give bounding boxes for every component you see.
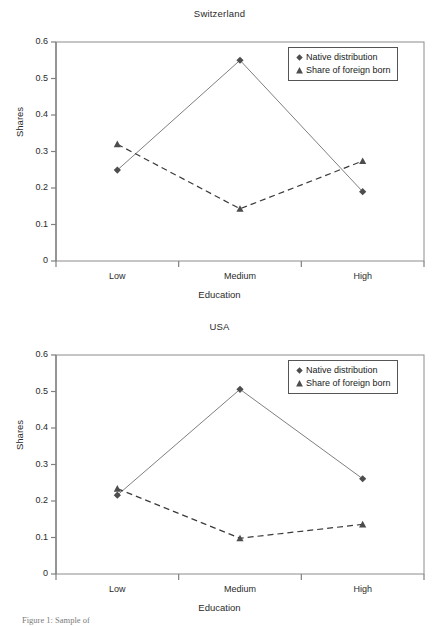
y-axis-label: Shares <box>14 107 25 137</box>
triangle-marker-icon <box>293 378 306 389</box>
y-tick-label: 0 <box>18 256 48 265</box>
legend-label: Share of foreign born <box>306 379 391 388</box>
chart-legend: Native distributionShare of foreign born <box>288 47 398 81</box>
triangle-marker-icon <box>293 65 306 76</box>
x-tick-label: High <box>323 585 403 594</box>
data-point-marker <box>236 205 243 212</box>
legend-label: Native distribution <box>306 53 378 62</box>
legend-item: Native distribution <box>293 364 391 377</box>
legend-label: Native distribution <box>306 366 378 375</box>
plot-area: 00.10.20.30.40.50.6LowMediumHighNative d… <box>0 0 439 313</box>
x-axis-label: Education <box>0 602 439 613</box>
chart-panel-switzerland: Switzerland 00.10.20.30.40.50.6LowMedium… <box>0 0 439 313</box>
y-tick-label: 0.2 <box>18 183 48 192</box>
y-tick-label: 0 <box>18 569 48 578</box>
y-tick-label: 0.6 <box>18 37 48 46</box>
chart-panel-usa: USA 00.10.20.30.40.50.6LowMediumHighNati… <box>0 313 439 626</box>
x-tick-label: Medium <box>200 272 280 281</box>
legend-item: Share of foreign born <box>293 377 391 390</box>
x-tick-label: High <box>323 272 403 281</box>
plot-area: 00.10.20.30.40.50.6LowMediumHighNative d… <box>0 313 439 626</box>
legend-item: Native distribution <box>293 51 391 64</box>
x-axis-label: Education <box>0 289 439 300</box>
y-tick-label: 0.5 <box>18 387 48 396</box>
y-tick-label: 0.1 <box>18 533 48 542</box>
chart-legend: Native distributionShare of foreign born <box>288 360 398 394</box>
figure-caption: Figure 1: Sample of <box>22 615 90 626</box>
x-tick-label: Low <box>77 272 157 281</box>
y-tick-label: 0.2 <box>18 496 48 505</box>
data-point-marker <box>114 485 121 492</box>
series-line <box>117 144 362 209</box>
y-tick-label: 0.5 <box>18 74 48 83</box>
y-tick-label: 0.1 <box>18 220 48 229</box>
series-line <box>117 489 362 539</box>
diamond-marker-icon <box>293 52 306 63</box>
y-axis-label: Shares <box>14 420 25 450</box>
legend-item: Share of foreign born <box>293 64 391 77</box>
data-point-marker <box>359 475 366 482</box>
data-point-marker <box>359 157 366 164</box>
y-tick-label: 0.6 <box>18 350 48 359</box>
x-tick-label: Low <box>77 585 157 594</box>
series-line <box>117 389 362 495</box>
data-point-marker <box>114 141 121 148</box>
x-tick-label: Medium <box>200 585 280 594</box>
legend-label: Share of foreign born <box>306 66 391 75</box>
diamond-marker-icon <box>293 365 306 376</box>
y-tick-label: 0.3 <box>18 147 48 156</box>
y-tick-label: 0.3 <box>18 460 48 469</box>
